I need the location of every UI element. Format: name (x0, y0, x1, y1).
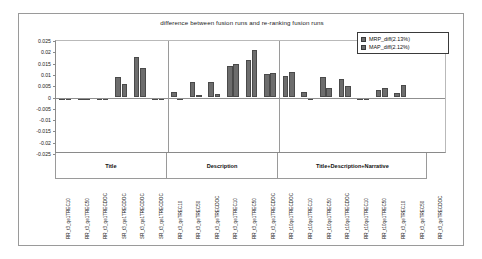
y-tick (53, 41, 56, 42)
x-tick-label: RR_t3_qe1TRECDOC (271, 177, 276, 239)
y-tick-label: -0.025 (36, 151, 51, 157)
y-tick (53, 131, 56, 132)
bar (345, 86, 351, 98)
x-tick-label: RR_t10qe1TREC50 (382, 177, 387, 239)
chart-frame: difference between fusion runs and re-ra… (18, 13, 464, 246)
x-tick-label: SR_t3_qe1TRECDOC (122, 177, 127, 239)
legend-item-mrp: MRP_diff(2.13%) (361, 35, 445, 43)
y-tick (53, 143, 56, 144)
y-tick (53, 86, 56, 87)
x-tick-label: RR_t3_qeTREC10 (401, 177, 406, 239)
x-tick-label: RR_t3_qe1TRECDOC (103, 177, 108, 239)
group-label: Title+Description+Narrative (278, 153, 427, 179)
y-tick-label: 0.01 (41, 72, 51, 78)
bar (326, 88, 332, 97)
bar (252, 50, 258, 98)
legend-swatch-mrp (361, 37, 366, 42)
x-tick-label: SR_t3_qe1TRECDOC (140, 177, 145, 239)
y-tick (53, 52, 56, 53)
x-tick-label: RR_t3_qeTREC50 (420, 177, 425, 239)
group-label: Title (55, 153, 167, 179)
bar (264, 74, 270, 98)
bar (227, 66, 233, 98)
x-tick-label: RR_t10qe1TREC50 (327, 177, 332, 239)
group-separator (168, 41, 169, 152)
y-tick-label: -0.01 (39, 117, 51, 123)
y-tick-label: -0.015 (36, 128, 51, 134)
x-tick-label: RR_t3_qeTRECDOC (438, 177, 443, 239)
bar (208, 82, 214, 97)
legend-label-map: MAP_diff(2.12%) (369, 44, 410, 50)
x-tick-label: RR_t3_qe1TREC10 (66, 177, 71, 239)
bar (270, 73, 276, 97)
y-tick-label: 0.015 (38, 61, 51, 67)
x-tick-label: RR_t10qe1TRECDOC (345, 177, 350, 239)
bar (320, 77, 326, 98)
x-tick-label: RR_t10qe1TRECDOC (289, 177, 294, 239)
y-tick-label: 0.005 (38, 83, 51, 89)
y-tick (53, 75, 56, 76)
bar (233, 64, 239, 98)
legend-swatch-map (361, 45, 366, 50)
x-tick-label: RR_t3_qe1TREC50 (252, 177, 257, 239)
x-tick-label: RR_t3_qeTREC50 (196, 177, 201, 239)
bar (283, 76, 289, 98)
group-label-band: TitleDescriptionTitle+Description+Narrat… (55, 153, 446, 179)
group-separator (279, 41, 280, 152)
y-tick (53, 109, 56, 110)
x-tick-label: SR_t3_qe1TRECDOC (159, 177, 164, 239)
chart-title: difference between fusion runs and re-ra… (19, 19, 465, 26)
bar (339, 79, 345, 98)
y-tick (53, 64, 56, 65)
y-tick-label: 0 (48, 95, 51, 101)
y-tick (53, 120, 56, 121)
x-tick-label: RR_t3_qe1TREC50 (85, 177, 90, 239)
y-tick-label: -0.005 (36, 106, 51, 112)
bar (190, 82, 196, 97)
zero-baseline (56, 98, 445, 99)
chart-page: difference between fusion runs and re-ra… (0, 0, 482, 259)
bar (401, 85, 407, 97)
bar (382, 88, 388, 97)
bar (122, 84, 128, 98)
bar (134, 57, 140, 97)
bars-layer (56, 41, 445, 152)
x-tick-label: RR_t3_qeTRECDOC (215, 177, 220, 239)
x-tick-label: RR_t10qe1TREC10 (308, 177, 313, 239)
y-tick-label: 0.02 (41, 49, 51, 55)
y-tick-label: 0.025 (38, 38, 51, 44)
bar (140, 68, 146, 98)
x-tick-label: RR_t10qe1TREC10 (364, 177, 369, 239)
bar (289, 72, 295, 97)
bar (115, 77, 121, 97)
legend-label-mrp: MRP_diff(2.13%) (369, 36, 410, 42)
x-tick-label: RR_t3_qe1TREC10 (233, 177, 238, 239)
plot-area: 0.0250.020.0150.010.0050-0.005-0.01-0.01… (55, 40, 446, 153)
group-label: Description (167, 153, 279, 179)
x-tick-label: RR_t3_qeTREC10 (178, 177, 183, 239)
bar (246, 60, 252, 98)
x-axis-labels: RR_t3_qe1TREC10RR_t3_qe1TREC50RR_t3_qe1T… (55, 179, 446, 241)
legend-item-map: MAP_diff(2.12%) (361, 43, 445, 51)
chart-legend: MRP_diff(2.13%) MAP_diff(2.12%) (357, 32, 449, 54)
bar (376, 90, 382, 98)
y-tick-label: -0.02 (39, 140, 51, 146)
